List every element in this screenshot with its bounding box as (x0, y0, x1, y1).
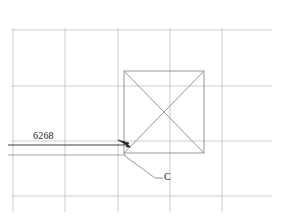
dimension-annotation (8, 140, 130, 155)
callout-leader (124, 153, 163, 178)
grid-horizontal-lines (11, 30, 272, 196)
drawing-canvas: 6268 C (0, 0, 281, 220)
callout-leader-path (124, 153, 163, 178)
grid-lines (11, 28, 272, 212)
callout-letter-label: C (164, 172, 171, 182)
grid-vertical-lines (13, 28, 222, 212)
dimension-value-label: 6268 (33, 131, 54, 141)
technical-drawing-svg (0, 0, 281, 220)
